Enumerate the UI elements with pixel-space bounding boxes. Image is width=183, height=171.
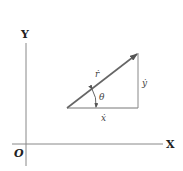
- y-component-label: ẏ: [141, 78, 148, 88]
- angle-arc: [92, 89, 96, 107]
- x-axis-label: X: [166, 138, 175, 151]
- vector-label: ṙ: [95, 69, 100, 79]
- angle-label: θ: [99, 92, 105, 102]
- velocity-components-diagram: Y X O ṙ θ ẏ ẋ: [0, 0, 183, 171]
- y-axis-label: Y: [20, 28, 29, 41]
- x-component-label: ẋ: [101, 113, 106, 123]
- origin-label: O: [14, 147, 24, 160]
